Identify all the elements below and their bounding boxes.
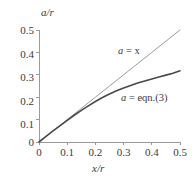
data-series bbox=[39, 30, 180, 142]
chart-figure: a/r x/r 0.5 0.4 0.3 0.2 0.1 0 0 0.1 0.2 … bbox=[0, 0, 195, 181]
series-line bbox=[39, 71, 180, 142]
plot-area bbox=[0, 0, 195, 181]
